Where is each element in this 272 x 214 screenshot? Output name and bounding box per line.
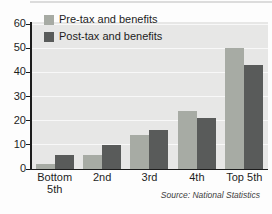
x-category-label-5: Top 5th <box>220 172 268 184</box>
bar-post-tax-4 <box>197 118 216 169</box>
y-tick-label-60: 60 <box>0 17 26 30</box>
bar-post-tax-2 <box>102 145 121 169</box>
bar-pre-tax-2 <box>83 155 102 170</box>
y-tick-label-10: 10 <box>0 138 26 151</box>
legend-row-post-tax: Post-tax and benefits <box>44 30 162 43</box>
legend-row-pre-tax: Pre-tax and benefits <box>44 13 162 26</box>
bar-group-2 <box>83 145 121 169</box>
legend-label-pre-tax: Pre-tax and benefits <box>59 13 157 26</box>
bar-pre-tax-3 <box>130 135 149 169</box>
plot-area <box>31 22 268 169</box>
y-axis-line <box>30 22 32 170</box>
x-category-label-2: 2nd <box>78 172 126 184</box>
legend: Pre-tax and benefits Post-tax and benefi… <box>44 13 162 43</box>
x-category-label-3: 3rd <box>126 172 174 184</box>
bar-groups <box>31 22 268 169</box>
bar-group-3 <box>130 130 168 169</box>
y-tick-label-0: 0 <box>0 162 26 175</box>
legend-label-post-tax: Post-tax and benefits <box>59 30 162 43</box>
bar-post-tax-1 <box>55 155 74 170</box>
bar-chart: Bottom 5th2nd3rd4thTop 5th Pre-tax and b… <box>0 0 272 214</box>
y-tick-label-40: 40 <box>0 65 26 78</box>
x-category-label-1: Bottom 5th <box>31 172 79 195</box>
bar-post-tax-3 <box>149 130 168 169</box>
top-rule <box>30 1 272 3</box>
legend-swatch-pre-tax-icon <box>44 15 54 25</box>
y-tick-label-20: 20 <box>0 114 26 127</box>
bar-pre-tax-4 <box>178 111 197 169</box>
bar-group-5 <box>225 48 263 169</box>
x-category-label-4: 4th <box>173 172 221 184</box>
x-axis-line <box>30 169 268 171</box>
bar-group-1 <box>36 155 74 170</box>
bar-post-tax-5 <box>244 65 263 169</box>
legend-swatch-post-tax-icon <box>44 32 54 42</box>
bar-pre-tax-5 <box>225 48 244 169</box>
y-tick-label-50: 50 <box>0 41 26 54</box>
y-tick-label-30: 30 <box>0 90 26 103</box>
bar-group-4 <box>178 111 216 169</box>
source-credit: Source: National Statistics <box>161 190 260 200</box>
